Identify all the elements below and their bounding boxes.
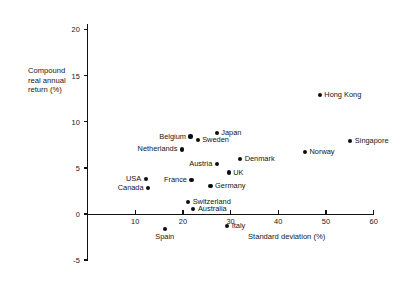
x-tick-label: 20 [172,217,194,226]
y-tick-20 [84,29,88,30]
x-tick-60 [373,210,374,214]
data-point [144,177,148,181]
data-point-label: Netherlands [138,145,178,153]
data-point [238,157,242,161]
x-tick-label: 10 [124,217,146,226]
y-tick-label: 20 [58,25,80,34]
data-point [163,227,167,231]
data-point-label: Denmark [245,155,275,163]
x-tick-50 [325,210,326,214]
data-point [348,139,352,143]
y-axis-line [87,24,88,261]
data-point [196,138,200,142]
x-tick-20 [182,210,183,214]
data-point-label: Canada [118,184,144,192]
data-point-label: Italy [232,222,246,230]
data-point-label: Norway [310,148,335,156]
data-point-label: Spain [155,233,174,241]
x-tick-label: 50 [315,217,337,226]
y-axis-title-line: Compound [28,66,88,76]
y-tick-label: 0 [58,210,80,219]
data-point [225,224,229,228]
y-axis-title: Compoundreal annualreturn (%) [28,66,88,95]
x-tick-label: 60 [363,217,385,226]
data-point-label: Belgium [159,133,186,141]
scatter-chart: -505101520 102030405060 Compoundreal ann… [0,0,403,286]
data-point-label: USA [126,175,141,183]
x-tick-40 [278,210,279,214]
y-tick-neg5 [84,259,88,260]
data-point-label: Germany [215,182,245,190]
data-point [146,186,150,190]
data-point [208,184,212,188]
data-point [191,207,195,211]
data-point-label: Australia [198,205,227,213]
data-point-label: Hong Kong [324,91,361,99]
y-tick-label: 5 [58,164,80,173]
data-point-label: Austria [189,160,212,168]
data-point [215,162,219,166]
data-point [318,93,322,97]
y-tick-10 [84,121,88,122]
data-point-label: Sweden [202,136,229,144]
data-point [186,200,190,204]
y-axis-title-line: real annual [28,76,88,86]
y-tick-label: -5 [58,256,80,265]
y-tick-5 [84,167,88,168]
data-point-label: Singapore [355,137,389,145]
x-tick-label: 40 [267,217,289,226]
data-point [188,134,192,138]
y-axis-title-line: return (%) [28,85,88,95]
x-tick-10 [135,210,136,214]
x-axis-title: Standard deviation (%) [248,232,325,241]
x-tick-30 [230,210,231,214]
data-point-label: France [164,176,187,184]
data-point [180,147,184,151]
data-point [303,150,307,154]
data-point [189,178,193,182]
y-tick-0 [84,213,88,214]
data-point [227,170,231,174]
y-tick-label: 10 [58,118,80,127]
data-point-label: UK [233,169,243,177]
